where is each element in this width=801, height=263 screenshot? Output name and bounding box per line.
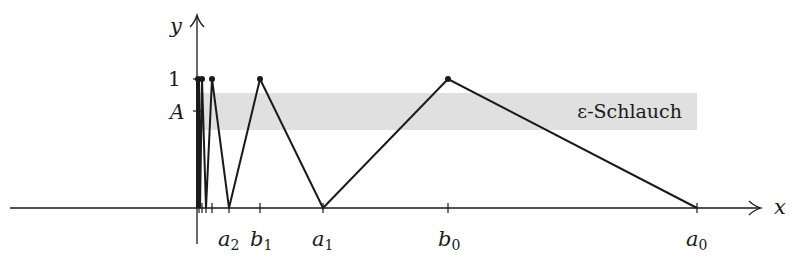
x-axis-label: x bbox=[774, 195, 786, 219]
peak-dot-b2 bbox=[209, 76, 215, 82]
peak-dot-b1 bbox=[257, 76, 263, 82]
y-tick-label-1: 1 bbox=[168, 67, 181, 91]
y-tick-label-a: A bbox=[168, 100, 184, 124]
x-tick-label-b1: b1 bbox=[250, 227, 272, 253]
x-tick-label-a2: a2 bbox=[218, 227, 239, 253]
y-axis-label: y bbox=[169, 14, 183, 38]
x-tick-label-a0: a0 bbox=[686, 227, 707, 253]
peak-dots bbox=[195, 76, 451, 82]
epsilon-tube-label: ε-Schlauch bbox=[577, 100, 682, 122]
epsilon-tube-diagram: ε-Schlauch x y 1 A a2 b1 a1 b0 bbox=[0, 0, 801, 263]
peak-dot-b4 bbox=[195, 76, 201, 82]
x-tick-label-b0: b0 bbox=[438, 227, 460, 253]
x-tick-label-a1: a1 bbox=[312, 227, 333, 253]
accumulation-near-origin bbox=[196, 79, 199, 208]
peak-dot-b0 bbox=[445, 76, 451, 82]
